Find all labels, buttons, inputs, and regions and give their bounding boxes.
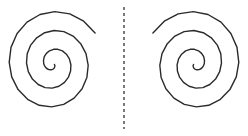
mirror-spirals-diagram (0, 0, 248, 136)
